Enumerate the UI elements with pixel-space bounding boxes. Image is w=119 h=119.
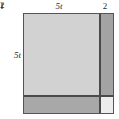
subdivided-square <box>23 13 114 114</box>
region-large-square <box>24 14 100 96</box>
area-model-figure: 5t 2 5t 2 <box>0 0 119 119</box>
dimension-label-left-bottom: 2 <box>0 0 5 10</box>
divider-horizontal-line <box>24 95 113 97</box>
region-right-strip <box>100 14 113 96</box>
region-corner-square <box>100 96 113 113</box>
dimension-label-top-left: 5t <box>48 1 70 11</box>
region-bottom-strip <box>24 96 100 113</box>
dimension-label-left-top: 5t <box>6 50 21 60</box>
divider-vertical-line <box>99 14 101 113</box>
dimension-label-top-right: 2 <box>96 1 114 11</box>
